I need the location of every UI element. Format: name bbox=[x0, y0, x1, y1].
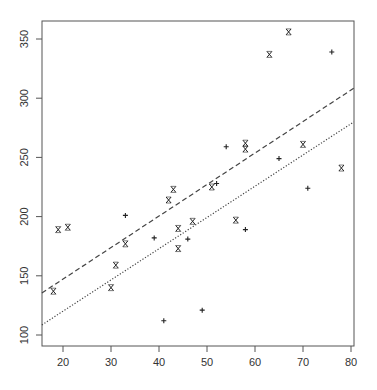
plus-marker-point bbox=[161, 318, 166, 323]
dashed-fit-line bbox=[42, 88, 354, 293]
x-tick-label: 50 bbox=[201, 356, 213, 368]
x-marker-point bbox=[301, 141, 306, 147]
x-marker-point bbox=[176, 246, 181, 252]
x-marker-point bbox=[176, 225, 181, 231]
y-tick-label: 150 bbox=[18, 267, 30, 285]
x-marker-point bbox=[190, 218, 195, 224]
plus-marker-point bbox=[305, 186, 310, 191]
x-tick-label: 80 bbox=[345, 356, 357, 368]
y-tick-label: 350 bbox=[18, 30, 30, 48]
plot-frame bbox=[42, 21, 354, 346]
x-marker-point bbox=[233, 217, 238, 223]
y-tick-label: 250 bbox=[18, 148, 30, 166]
plus-marker-point bbox=[123, 213, 128, 218]
x-marker-point bbox=[123, 241, 128, 247]
x-axis: 20304050607080 bbox=[57, 346, 357, 368]
plus-marker-point bbox=[277, 156, 282, 161]
y-axis: 100150200250300350 bbox=[18, 30, 42, 344]
plus-marker-point bbox=[185, 237, 190, 242]
plus-marker-point bbox=[243, 227, 248, 232]
data-points bbox=[51, 29, 344, 323]
regression-lines bbox=[42, 88, 354, 325]
y-tick-label: 300 bbox=[18, 89, 30, 107]
x-marker-point bbox=[51, 288, 56, 294]
plus-marker-point bbox=[224, 144, 229, 149]
y-tick-label: 100 bbox=[18, 326, 30, 344]
x-marker-point bbox=[171, 186, 176, 192]
x-marker-point bbox=[56, 227, 61, 233]
x-marker-point bbox=[109, 285, 114, 291]
plus-marker-point bbox=[152, 235, 157, 240]
x-tick-label: 60 bbox=[249, 356, 261, 368]
y-tick-label: 200 bbox=[18, 207, 30, 225]
x-tick-label: 30 bbox=[105, 356, 117, 368]
x-marker-point bbox=[243, 146, 248, 152]
scatter-plot: 20304050607080 100150200250300350 bbox=[0, 0, 377, 390]
x-marker-point bbox=[339, 165, 344, 171]
x-marker-point bbox=[113, 262, 118, 268]
x-marker-point bbox=[65, 224, 70, 230]
dotted-fit-line bbox=[42, 122, 354, 325]
x-tick-label: 70 bbox=[297, 356, 309, 368]
x-marker-point bbox=[209, 184, 214, 190]
x-marker-point bbox=[286, 29, 291, 35]
plus-marker-point bbox=[214, 181, 219, 186]
x-tick-label: 20 bbox=[57, 356, 69, 368]
plus-marker-point bbox=[200, 308, 205, 313]
x-tick-label: 40 bbox=[153, 356, 165, 368]
plus-marker-point bbox=[329, 50, 334, 55]
x-marker-point bbox=[243, 140, 248, 146]
x-marker-point bbox=[267, 51, 272, 57]
x-marker-point bbox=[166, 197, 171, 203]
